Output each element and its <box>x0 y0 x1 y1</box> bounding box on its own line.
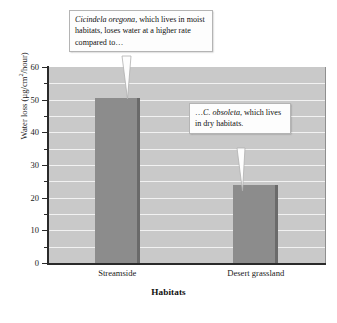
chart-figure: 0102030405060 Water loss (µg/cm2/hour) S… <box>0 0 337 323</box>
callout-tail-desert <box>237 148 245 191</box>
callout-desert-lead: … <box>195 108 203 117</box>
callout-streamside: Cicindela oregona, which lives in moist … <box>69 10 213 52</box>
callout-desert-grassland: …C. obsoleta, which lives in dry habitat… <box>189 103 291 134</box>
callout-tail-streamside <box>122 56 131 99</box>
callout-desert-species: C. obsoleta <box>203 108 240 117</box>
callout-streamside-species: Cicindela oregona <box>75 15 135 24</box>
